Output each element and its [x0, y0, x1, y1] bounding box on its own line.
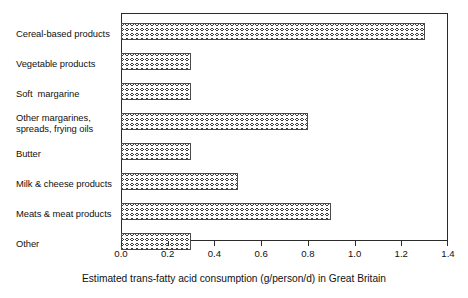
x-tick-label: 0.6 — [241, 241, 281, 260]
category-label-butter: Butter — [16, 148, 121, 159]
category-label-other-margarines-spreads-frying-oils: Other margarines, spreads, frying oils — [16, 112, 121, 134]
category-axis-labels: Cereal-based products Vegetable products… — [0, 0, 121, 240]
x-tick-label: 0.4 — [194, 241, 234, 260]
bars-layer — [121, 13, 448, 241]
x-tick-label: 0.8 — [288, 241, 328, 260]
x-tick-label: 1.0 — [335, 241, 375, 260]
bar-other-margarines — [121, 113, 308, 130]
x-tick-label: 1.2 — [381, 241, 421, 260]
bar-cereal-based-products — [121, 23, 425, 40]
x-tick-label: 1.4 — [428, 241, 468, 260]
category-label-soft-margarine: Soft margarine — [16, 88, 121, 99]
bar-soft-margarine — [121, 83, 191, 100]
x-tick-label: 0.2 — [148, 241, 188, 260]
bar-milk-and-cheese-products — [121, 173, 238, 190]
x-tick-label: 0.0 — [101, 241, 141, 260]
bar-meats-and-meat-products — [121, 203, 331, 220]
bar-chart: Cereal-based products Vegetable products… — [0, 0, 468, 298]
bar-vegetable-products — [121, 53, 191, 70]
x-axis-title: Estimated trans-fatty acid consumption (… — [0, 272, 468, 285]
category-label-cereal-based-products: Cereal-based products — [16, 28, 121, 39]
bar-butter — [121, 143, 191, 160]
category-label-vegetable-products: Vegetable products — [16, 58, 121, 69]
category-label-milk-and-cheese-products: Milk & cheese products — [16, 178, 121, 189]
category-label-meats-and-meat-products: Meats & meat products — [16, 208, 121, 219]
